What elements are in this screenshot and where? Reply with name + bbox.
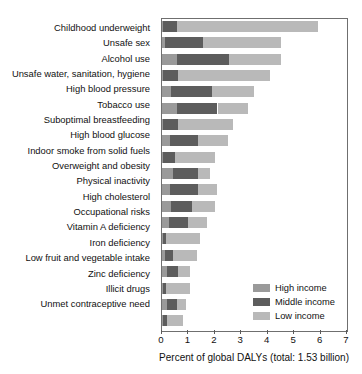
x-axis: 01234567: [161, 330, 346, 346]
bar-segment: [162, 184, 170, 195]
bar-segment: [171, 201, 192, 212]
bar-row: [162, 36, 347, 51]
legend-swatch: [253, 298, 270, 306]
x-axis-tick-label: 7: [336, 334, 356, 345]
category-label: High blood glucose: [0, 127, 155, 142]
bar-row: [162, 102, 347, 117]
bar-segment: [178, 70, 271, 81]
bar-row: [162, 134, 347, 149]
bar-segment: [173, 168, 198, 179]
legend-swatch: [253, 312, 270, 320]
bar-segment: [167, 299, 176, 310]
category-label: Zinc deficiency: [0, 266, 155, 281]
x-axis-title: Percent of global DALYs (total: 1.53 bil…: [0, 352, 362, 363]
category-label: High blood pressure: [0, 81, 155, 96]
bar-segment: [177, 299, 186, 310]
category-label: Unsafe sex: [0, 35, 155, 50]
x-axis-tick-label: 3: [230, 334, 250, 345]
bar-row: [162, 249, 347, 264]
category-label: High cholesterol: [0, 189, 155, 204]
legend: High incomeMiddle incomeLow income: [253, 281, 345, 323]
legend-label: Middle income: [275, 297, 335, 307]
bar-segment: [173, 250, 197, 261]
bar-row: [162, 118, 347, 133]
category-label: Indoor smoke from solid fuels: [0, 143, 155, 158]
bar-row: [162, 167, 347, 182]
category-label: Vitamin A deficiency: [0, 219, 155, 234]
bar-segment: [178, 266, 190, 277]
bar-segment: [162, 201, 171, 212]
bar-row: [162, 265, 347, 280]
bar-row: [162, 85, 347, 100]
bar-row: [162, 20, 347, 35]
bar-segment: [169, 217, 189, 228]
bar-segment: [170, 184, 198, 195]
bar-row: [162, 216, 347, 231]
bar-segment: [162, 54, 177, 65]
bar-segment: [166, 283, 190, 294]
bar-segment: [177, 21, 318, 32]
bar-row: [162, 151, 347, 166]
x-axis-tick-label: 1: [177, 334, 197, 345]
category-label: Alcohol use: [0, 51, 155, 66]
legend-item: Low income: [253, 309, 345, 322]
bar-segment: [177, 103, 218, 114]
bar-segment: [175, 152, 215, 163]
category-label: Childhood underweight: [0, 20, 155, 35]
category-label: Iron deficiency: [0, 235, 155, 250]
category-label: Illicit drugs: [0, 281, 155, 296]
bar-row: [162, 69, 347, 84]
x-axis-tick-label: 4: [257, 334, 277, 345]
legend-item: Middle income: [253, 295, 345, 308]
legend-item: High income: [253, 281, 345, 294]
bar-segment: [163, 21, 176, 32]
bar-segment: [198, 135, 228, 146]
bar-segment: [163, 119, 178, 130]
bar-segment: [163, 70, 178, 81]
bar-row: [162, 200, 347, 215]
category-label: Occupational risks: [0, 204, 155, 219]
bar-segment: [167, 266, 178, 277]
bar-segment: [178, 119, 234, 130]
category-label: Unsafe water, sanitation, hygiene: [0, 66, 155, 81]
bar-segment: [162, 135, 170, 146]
bar-row: [162, 183, 347, 198]
bar-segment: [162, 168, 173, 179]
category-label: Low fruit and vegetable intake: [0, 250, 155, 265]
bar-row: [162, 53, 347, 68]
bar-segment: [212, 86, 254, 97]
category-label: Suboptimal breastfeeding: [0, 112, 155, 127]
bar-segment: [218, 103, 248, 114]
bar-segment: [163, 152, 175, 163]
bar-segment: [171, 86, 212, 97]
category-label: Overweight and obesity: [0, 158, 155, 173]
bar-segment: [203, 37, 281, 48]
bar-segment: [177, 54, 230, 65]
category-label: Tobacco use: [0, 97, 155, 112]
bar-segment: [192, 201, 214, 212]
bar-segment: [229, 54, 281, 65]
legend-label: Low income: [275, 311, 325, 321]
bar-segment: [198, 168, 210, 179]
stacked-bar-chart: Childhood underweightUnsafe sexAlcohol u…: [0, 0, 362, 374]
category-label: Physical inactivity: [0, 173, 155, 188]
bar-segment: [162, 86, 171, 97]
bar-segment: [188, 217, 207, 228]
bar-segment: [162, 103, 177, 114]
category-axis-labels: Childhood underweightUnsafe sexAlcohol u…: [0, 20, 155, 312]
bar-segment: [166, 233, 200, 244]
bar-row: [162, 232, 347, 247]
bar-segment: [170, 135, 198, 146]
category-label: Unmet contraceptive need: [0, 296, 155, 311]
legend-swatch: [253, 284, 270, 292]
x-axis-tick-label: 5: [283, 334, 303, 345]
legend-label: High income: [275, 283, 327, 293]
x-axis-tick-label: 2: [204, 334, 224, 345]
bar-segment: [165, 37, 203, 48]
x-axis-tick-label: 0: [151, 334, 171, 345]
bar-segment: [162, 217, 169, 228]
x-axis-tick-label: 6: [310, 334, 330, 345]
bar-segment: [165, 250, 173, 261]
bar-segment: [198, 184, 218, 195]
bar-segment: [167, 315, 183, 326]
